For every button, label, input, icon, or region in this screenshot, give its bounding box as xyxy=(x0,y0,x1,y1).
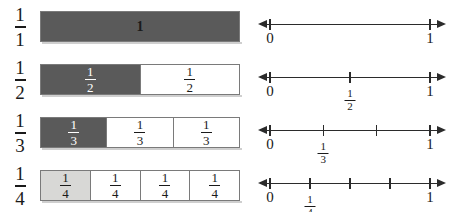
cell-value: 1 xyxy=(137,19,144,35)
number-line-tick[interactable] xyxy=(269,19,270,30)
fraction-row: 14141414140141 xyxy=(0,159,451,212)
fraction-denominator: 4 xyxy=(307,207,313,212)
arrow-right-icon xyxy=(437,20,446,28)
fraction-numerator: 1 xyxy=(187,65,194,78)
fraction-numerator: 1 xyxy=(62,171,69,184)
fraction-numerator: 1 xyxy=(211,171,218,184)
fraction-bar xyxy=(15,185,26,186)
fraction-bar-model: 1212 xyxy=(40,64,240,95)
fraction-denominator: 2 xyxy=(87,81,94,94)
number-line-tick[interactable] xyxy=(269,125,270,136)
fraction-denominator: 4 xyxy=(112,187,119,200)
arrow-left-icon xyxy=(258,20,267,28)
fraction-numerator: 1 xyxy=(347,88,353,99)
fraction-numerator: 1 xyxy=(15,5,25,25)
fraction-denominator: 4 xyxy=(62,187,69,200)
arrow-left-icon xyxy=(258,179,267,187)
fraction-numerator: 1 xyxy=(87,65,94,78)
bar-shadow xyxy=(42,148,242,150)
number-line-tick[interactable] xyxy=(429,72,430,83)
fraction: 14 xyxy=(305,194,316,212)
arrow-left-icon xyxy=(258,126,267,134)
number-line-tick[interactable] xyxy=(349,178,350,189)
fraction: 12 xyxy=(85,65,96,93)
fraction-bar-cell[interactable]: 13 xyxy=(41,118,107,147)
number-line-tick[interactable] xyxy=(376,125,377,136)
fraction-numerator: 1 xyxy=(307,194,313,205)
arrow-right-icon xyxy=(437,179,446,187)
fraction: 14 xyxy=(110,171,121,199)
row-fraction-label: 12 xyxy=(6,62,34,98)
fraction-numerator: 1 xyxy=(112,171,119,184)
fraction-diagram: 1110112121201211313131301311414141414014… xyxy=(0,0,451,212)
fraction-bar-cell[interactable]: 13 xyxy=(107,118,173,147)
tick-label: 0 xyxy=(266,30,274,47)
number-line-axis xyxy=(266,130,438,131)
fraction: 14 xyxy=(159,171,170,199)
fraction-denominator: 1 xyxy=(15,29,25,49)
fraction-denominator: 2 xyxy=(15,82,25,102)
number-line-tick[interactable] xyxy=(323,125,324,136)
row-fraction-label: 13 xyxy=(6,115,34,151)
number-line-tick[interactable] xyxy=(349,72,350,83)
number-line: 0131 xyxy=(258,117,446,153)
fraction-bar-cell[interactable]: 14 xyxy=(190,171,239,200)
fraction-bar xyxy=(15,26,26,27)
number-line-tick[interactable] xyxy=(269,72,270,83)
tick-label: 1 xyxy=(426,136,434,153)
row-fraction-label: 14 xyxy=(6,168,34,204)
fraction-row: 131313130131 xyxy=(0,106,451,159)
fraction-bar-cell[interactable]: 14 xyxy=(141,171,191,200)
number-line-axis xyxy=(266,183,438,184)
fraction-bar-model: 1 xyxy=(40,11,240,42)
fraction-denominator: 3 xyxy=(203,134,210,147)
fraction-numerator: 1 xyxy=(162,171,169,184)
number-line-axis xyxy=(266,77,438,78)
number-line-tick[interactable] xyxy=(429,125,430,136)
number-line-tick[interactable] xyxy=(309,178,310,189)
arrow-left-icon xyxy=(258,73,267,81)
number-line-tick[interactable] xyxy=(429,19,430,30)
fraction: 14 xyxy=(60,171,71,199)
fraction-numerator: 1 xyxy=(15,164,25,184)
fraction-denominator: 2 xyxy=(187,81,194,94)
fraction-bar-cell[interactable]: 12 xyxy=(41,65,141,94)
tick-label: 14 xyxy=(305,189,316,212)
fraction-bar-cell[interactable]: 12 xyxy=(141,65,240,94)
fraction-bar-cell[interactable]: 13 xyxy=(174,118,239,147)
fraction-bar xyxy=(15,132,26,133)
bar-shadow xyxy=(42,95,242,97)
fraction-denominator: 4 xyxy=(15,188,25,208)
fraction: 14 xyxy=(209,171,220,199)
number-line-tick[interactable] xyxy=(389,178,390,189)
tick-label: 0 xyxy=(266,189,274,206)
fraction-denominator: 4 xyxy=(162,187,169,200)
fraction-bar-model: 14141414 xyxy=(40,170,240,201)
fraction-denominator: 3 xyxy=(15,135,25,155)
fraction-bar-cell[interactable]: 14 xyxy=(91,171,141,200)
fraction-numerator: 1 xyxy=(15,111,25,131)
fraction-numerator: 1 xyxy=(137,118,144,131)
fraction: 13 xyxy=(15,111,26,154)
fraction: 12 xyxy=(184,65,195,93)
row-fraction-label: 11 xyxy=(6,9,34,45)
fraction-bar-cell[interactable]: 14 xyxy=(41,171,91,200)
number-line: 0121 xyxy=(258,64,446,100)
tick-label: 0 xyxy=(266,83,274,100)
number-line-axis xyxy=(266,24,438,25)
fraction-numerator: 1 xyxy=(203,118,210,131)
arrow-right-icon xyxy=(437,73,446,81)
fraction-row: 11101 xyxy=(0,0,451,53)
fraction-numerator: 1 xyxy=(15,58,25,78)
bar-shadow xyxy=(42,42,242,44)
number-line-tick[interactable] xyxy=(269,178,270,189)
fraction-bar-cell[interactable]: 1 xyxy=(41,12,239,41)
fraction-bar-model: 131313 xyxy=(40,117,240,148)
tick-label: 1 xyxy=(426,189,434,206)
fraction-denominator: 4 xyxy=(211,187,218,200)
fraction: 13 xyxy=(134,118,145,146)
bar-shadow xyxy=(42,201,242,203)
fraction: 13 xyxy=(68,118,79,146)
number-line-tick[interactable] xyxy=(429,178,430,189)
fraction-row: 1212120121 xyxy=(0,53,451,106)
